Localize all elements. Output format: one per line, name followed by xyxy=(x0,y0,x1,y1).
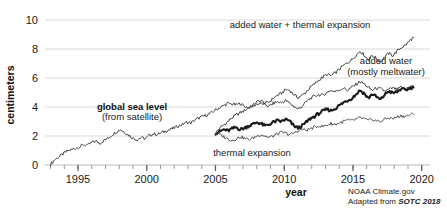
credit-line-source: Adapted from SOTC 2018 xyxy=(348,197,441,206)
x-tick-label-2010: 2010 xyxy=(272,173,296,185)
y-tick-label-10: 10 xyxy=(26,14,38,26)
y-tick-label-6: 6 xyxy=(32,72,38,84)
y-tick-label-4: 4 xyxy=(32,101,38,113)
annotation-added-water-line2: (mostly meltwater) xyxy=(347,66,425,77)
y-tick-label-8: 8 xyxy=(32,43,38,55)
y-axis-title: centimeters xyxy=(4,65,16,124)
y-tick-label-2: 2 xyxy=(32,130,38,142)
x-axis-title: year xyxy=(285,186,307,198)
annotation-added-water-thermal: added water + thermal expansion xyxy=(230,19,371,30)
x-tick-label-2005: 2005 xyxy=(203,173,227,185)
chart-canvas: 0246810 199520002005201020152020 centime… xyxy=(0,0,447,214)
x-tick-label-2015: 2015 xyxy=(341,173,365,185)
annotation-added-water-line1: added water xyxy=(360,55,412,66)
y-tick-label-0: 0 xyxy=(32,159,38,171)
sea-level-chart: 0246810 199520002005201020152020 centime… xyxy=(0,0,447,214)
annotation-global-sea-level-line2: (from satellite) xyxy=(102,111,162,122)
x-tick-label-2000: 2000 xyxy=(135,173,159,185)
annotation-thermal-expansion: thermal expansion xyxy=(213,147,291,158)
credit-line-noaa: NOAA Climate.gov xyxy=(348,187,415,196)
x-tick-label-1995: 1995 xyxy=(66,173,90,185)
x-tick-label-2020: 2020 xyxy=(410,173,434,185)
